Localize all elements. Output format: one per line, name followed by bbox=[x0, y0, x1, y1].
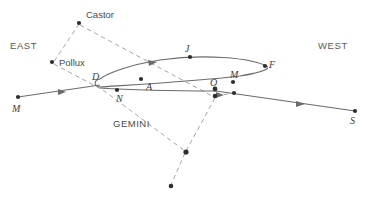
line-lower-junction-to-south-star bbox=[186, 98, 215, 151]
arrow-west-leftward bbox=[296, 101, 305, 107]
label-east: EAST bbox=[10, 40, 37, 51]
dot-marker-a bbox=[139, 77, 143, 81]
constellation-lines bbox=[53, 24, 233, 185]
label-marker-m-loop: M bbox=[229, 69, 239, 80]
label-west: WEST bbox=[318, 40, 348, 51]
label-marker-d: D bbox=[91, 71, 100, 82]
label-pollux: Pollux bbox=[59, 57, 85, 68]
label-marker-n: N bbox=[115, 93, 124, 104]
dot-endpoint-s bbox=[353, 109, 357, 113]
star-chart-figure: EAST WEST Castor Pollux GEMINI D J A M F… bbox=[0, 0, 371, 199]
dot-lower-junction bbox=[183, 149, 188, 154]
dot-pollux bbox=[50, 60, 54, 64]
dot-lower-left-star bbox=[169, 184, 174, 189]
label-marker-f: F bbox=[268, 59, 276, 70]
label-gemini: GEMINI bbox=[113, 118, 150, 129]
dot-marker-f bbox=[263, 64, 267, 68]
label-castor: Castor bbox=[86, 9, 114, 20]
dot-endpoint-m bbox=[16, 95, 20, 99]
dot-marker-n bbox=[115, 88, 119, 92]
dot-south-star bbox=[213, 94, 218, 99]
path-west-segment bbox=[216, 91, 355, 111]
label-endpoint-s: S bbox=[350, 115, 355, 126]
dot-marker-j bbox=[188, 55, 192, 59]
arrow-south-star-marker bbox=[216, 92, 224, 98]
dot-marker-m bbox=[231, 80, 235, 84]
star-chart-canvas: EAST WEST Castor Pollux GEMINI D J A M F… bbox=[0, 0, 371, 199]
label-marker-o: O bbox=[210, 77, 217, 88]
label-marker-a: A bbox=[145, 81, 153, 92]
path-loop-lower-branch bbox=[100, 68, 268, 87]
line-lower-junction-to-lower-left-star bbox=[171, 153, 185, 185]
dot-castor bbox=[77, 21, 81, 25]
label-marker-j: J bbox=[185, 43, 190, 54]
label-endpoint-m: M bbox=[11, 103, 21, 114]
star-dots bbox=[50, 21, 236, 188]
dot-right-star bbox=[232, 91, 236, 95]
